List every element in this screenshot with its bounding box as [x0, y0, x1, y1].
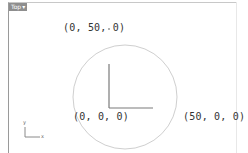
gizmo-x-label: x	[41, 133, 44, 139]
circle-curve[interactable]	[73, 45, 177, 149]
gizmo-y-label: y	[23, 119, 26, 125]
point-label-origin: (0, 0, 0)	[73, 111, 129, 122]
point-label-top: (0, 50, 0)	[63, 22, 125, 33]
point-label-right: (50, 0, 0)	[183, 111, 245, 122]
